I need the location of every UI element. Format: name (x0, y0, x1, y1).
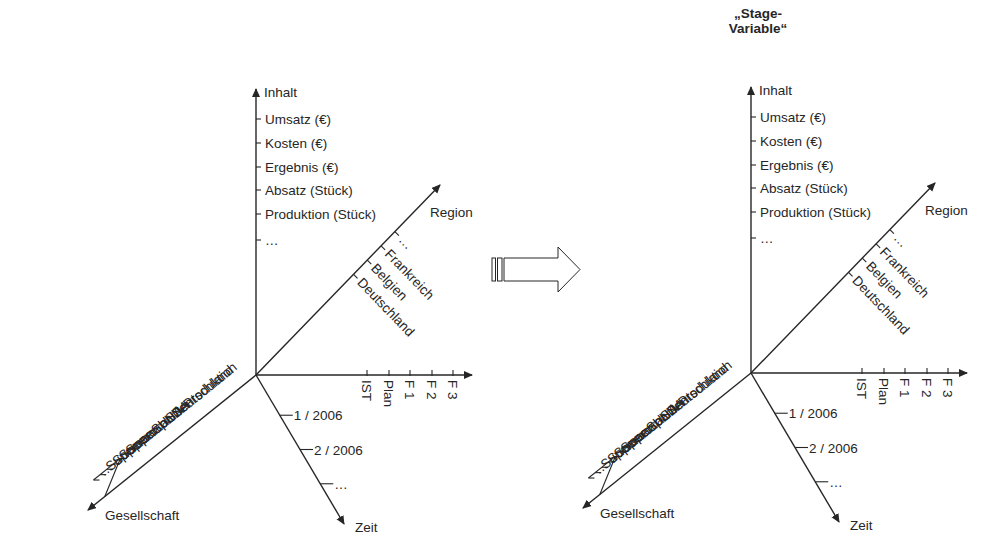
axis-label-region: Region (430, 205, 473, 220)
dimension-diagram-canvas: InhaltUmsatz (€)Kosten (€)Ergebnis (€)Ab… (0, 0, 985, 559)
szenario-item: F 1 (402, 380, 417, 400)
zeit-item: … (829, 475, 843, 490)
axis-label-inhalt: Inhalt (759, 83, 792, 98)
inhalt-item: Umsatz (€) (760, 110, 826, 125)
szenario-item: Plan (381, 380, 396, 407)
tick (395, 232, 399, 236)
inhalt-item: Umsatz (€) (265, 112, 331, 127)
szenario-item: IST (359, 380, 374, 401)
zeit-item: … (334, 477, 348, 492)
tick (367, 260, 371, 264)
inhalt-item: Produktion (Stück) (760, 205, 871, 220)
axis-gesellschaft-line (88, 375, 256, 510)
block-arrow-right-icon (492, 247, 580, 292)
axis-label-region: Region (925, 203, 968, 218)
tick (354, 274, 358, 278)
tick (862, 258, 866, 262)
szenario-item: F 2 (424, 380, 439, 400)
diagram-before: InhaltUmsatz (€)Kosten (€)Ergebnis (€)Ab… (88, 85, 473, 535)
szenario-item: F 2 (919, 378, 934, 398)
axis-szenario: ISTPlanF 1F 2F 3 (256, 370, 472, 407)
tick (849, 272, 853, 276)
inhalt-item: Ergebnis (€) (760, 158, 834, 173)
tick (381, 246, 385, 250)
szenario-item: IST (854, 378, 869, 399)
zeit-item: 2 / 2006 (314, 443, 363, 458)
inhalt-item: Kosten (€) (760, 134, 822, 149)
axis-inhalt: InhaltUmsatz (€)Kosten (€)Ergebnis (€)Ab… (751, 83, 871, 373)
tick (890, 230, 894, 234)
diagram-after-stage-variable: „Stage-Variable“InhaltUmsatz (€)Kosten (… (583, 6, 968, 533)
inhalt-item: Produktion (Stück) (265, 207, 376, 222)
szenario-item: Plan (876, 378, 891, 405)
inhalt-item: Absatz (Stück) (265, 183, 353, 198)
stage-variable-title: „Stage- (734, 6, 782, 21)
zeit-item: 1 / 2006 (294, 408, 343, 423)
axis-label-gesellschaft: Gesellschaft (105, 508, 180, 523)
szenario-item: F 1 (897, 378, 912, 398)
inhalt-item: Absatz (Stück) (760, 181, 848, 196)
tick (876, 244, 880, 248)
axis-label-zeit: Zeit (355, 520, 378, 535)
axis-label-zeit: Zeit (850, 518, 873, 533)
axis-label-gesellschaft: Gesellschaft (600, 506, 675, 521)
zeit-item: 1 / 2006 (789, 406, 838, 421)
inhalt-item: Kosten (€) (265, 136, 327, 151)
zeit-item: 2 / 2006 (809, 441, 858, 456)
szenario-item: F 3 (445, 380, 460, 400)
axis-szenario: ISTPlanF 1F 2F 3 (751, 368, 967, 405)
szenario-item: F 3 (940, 378, 955, 398)
axis-gesellschaft: GesellschaftSupercar DeutschlandSupercar… (583, 358, 751, 521)
inhalt-item: Ergebnis (€) (265, 160, 339, 175)
inhalt-item: … (760, 231, 774, 246)
axis-gesellschaft-line (583, 373, 751, 508)
inhalt-item: … (265, 233, 279, 248)
axis-gesellschaft: GesellschaftSupercar DeutschlandSupercar… (88, 360, 256, 523)
axis-inhalt: InhaltUmsatz (€)Kosten (€)Ergebnis (€)Ab… (256, 85, 376, 375)
stage-variable-title: Variable“ (729, 21, 788, 36)
axis-label-inhalt: Inhalt (264, 85, 297, 100)
